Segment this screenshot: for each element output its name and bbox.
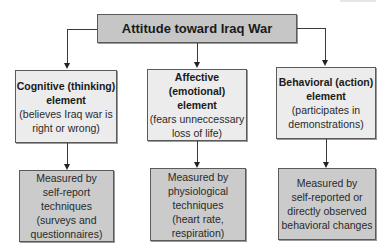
connector-root-left-v	[67, 29, 68, 64]
behavioral-heading: Behavioral (action)	[279, 75, 374, 89]
measure-line: techniques	[41, 199, 92, 213]
arrow-down-icon	[64, 63, 70, 69]
measure-line: behavioral changes	[281, 218, 372, 232]
measure-line: self-report	[43, 185, 90, 199]
affective-measure-node: Measured by physiological techniques (he…	[150, 168, 246, 241]
measure-line: questionnaires)	[31, 227, 103, 241]
behavioral-element-node: Behavioral (action) element (participate…	[276, 67, 376, 139]
root-node: Attitude toward Iraq War	[97, 14, 297, 43]
connector-behavioral-v	[326, 139, 327, 162]
root-title: Attitude toward Iraq War	[122, 21, 272, 36]
arrow-down-icon	[194, 62, 200, 68]
measure-line: (heart rate,	[172, 212, 223, 226]
cognitive-desc-2: right or wrong)	[32, 121, 100, 135]
affective-desc-2: loss of life)	[172, 126, 222, 140]
behavioral-desc-1: (participates in	[292, 103, 360, 117]
affective-heading-2: element	[177, 98, 217, 112]
measure-line: Measured by	[36, 171, 97, 185]
connector-root-right-h	[297, 28, 326, 29]
connector-cognitive-v	[67, 143, 68, 165]
measure-line: techniques	[173, 198, 224, 212]
affective-desc-1: (fears unneccessary	[150, 112, 245, 126]
top-edge-artifact	[340, 0, 376, 2]
cognitive-heading: Cognitive (thinking)	[17, 79, 116, 93]
affective-element-node: Affective (emotional) element (fears unn…	[147, 69, 247, 141]
connector-affective-v	[197, 141, 198, 162]
behavioral-desc-2: demonstrations)	[288, 117, 363, 131]
measure-line: physiological	[168, 184, 228, 198]
measure-line: Measured by	[297, 176, 358, 190]
measure-line: directly observed	[287, 204, 366, 218]
behavioral-measure-node: Measured by self-reported or directly ob…	[278, 168, 376, 240]
arrow-down-icon	[322, 60, 328, 66]
cognitive-element-node: Cognitive (thinking) element (believes I…	[15, 70, 117, 143]
connector-root-left-h	[67, 29, 97, 30]
behavioral-heading-2: element	[306, 89, 346, 103]
connector-root-right-v	[325, 28, 326, 61]
measure-line: respiration)	[172, 226, 225, 240]
cognitive-desc-1: (believes Iraq war is	[19, 107, 112, 121]
cognitive-heading-2: element	[46, 93, 86, 107]
affective-heading: Affective (emotional)	[148, 70, 246, 98]
measure-line: self-reported or	[291, 190, 362, 204]
measure-line: Measured by	[168, 170, 229, 184]
connector-root-center-v	[197, 43, 198, 63]
measure-line: (surveys and	[36, 213, 96, 227]
cognitive-measure-node: Measured by self-report techniques (surv…	[19, 170, 114, 242]
